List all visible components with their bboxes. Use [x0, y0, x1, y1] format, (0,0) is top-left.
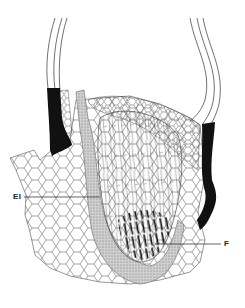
label-ei: EI	[13, 193, 22, 201]
left-hair-shafts	[47, 18, 67, 92]
anatomical-section-drawing	[0, 0, 245, 308]
right-hair-shafts	[190, 18, 220, 126]
label-f: F	[224, 240, 229, 248]
